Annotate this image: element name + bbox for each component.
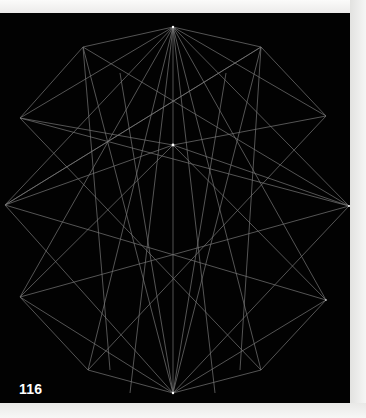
paper-right-edge: [350, 0, 366, 418]
page-number: 116: [19, 381, 42, 397]
geometric-star-illustration: [0, 13, 350, 403]
paper-top-edge: [0, 0, 366, 13]
paper-bottom-edge: [0, 403, 366, 418]
black-print-area: 116: [0, 13, 350, 403]
